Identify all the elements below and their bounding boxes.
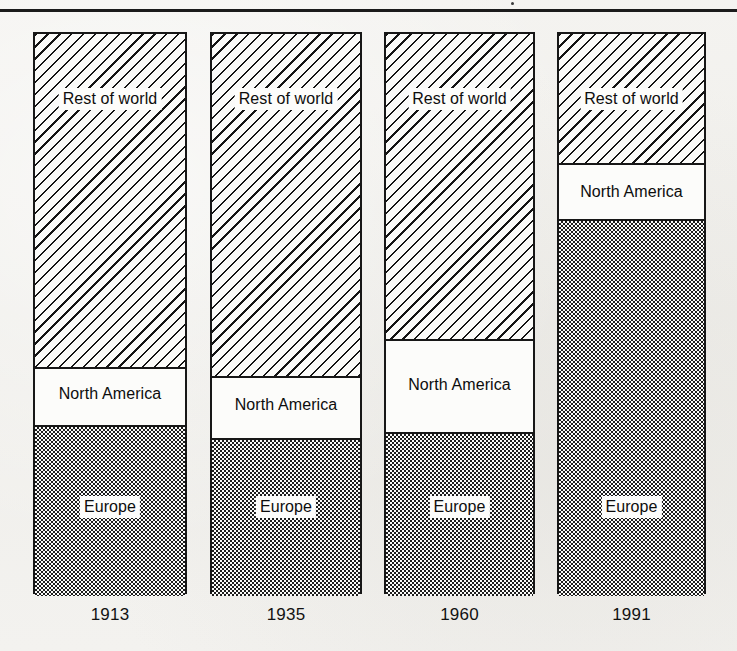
segment-label-rest_of_world-1913: Rest of world: [59, 88, 162, 110]
segment-label-north_america-1935: North America: [233, 394, 340, 416]
bar-stack-1991: Rest of worldNorth AmericaEurope: [557, 32, 706, 594]
year-label-1913: 1913: [33, 604, 187, 625]
segment-europe-1991[interactable]: [559, 221, 704, 596]
segment-label-north_america-1913: North America: [57, 383, 164, 405]
bar-stack-1913: Rest of worldNorth AmericaEurope: [33, 32, 187, 594]
bar-1935[interactable]: Rest of worldNorth AmericaEurope: [210, 32, 362, 594]
stacked-bar-chart: Rest of worldNorth AmericaEurope1913Rest…: [0, 0, 737, 651]
segment-label-rest_of_world-1935: Rest of world: [235, 88, 338, 110]
bar-1991[interactable]: Rest of worldNorth AmericaEurope: [557, 32, 706, 594]
segment-rest_of_world-1935[interactable]: [212, 34, 360, 376]
bar-1913[interactable]: Rest of worldNorth AmericaEurope: [33, 32, 187, 594]
segment-label-europe-1991: Europe: [601, 496, 661, 518]
segment-label-europe-1935: Europe: [256, 496, 316, 518]
segment-rest_of_world-1913[interactable]: [35, 34, 185, 367]
segment-europe-1935[interactable]: [212, 440, 360, 596]
segment-label-rest_of_world-1991: Rest of world: [580, 88, 683, 110]
segment-rest_of_world-1960[interactable]: [386, 34, 533, 339]
segment-label-europe-1913: Europe: [80, 496, 140, 518]
year-label-1935: 1935: [210, 604, 362, 625]
bar-1960[interactable]: Rest of worldNorth AmericaEurope: [384, 32, 535, 594]
segment-label-europe-1960: Europe: [429, 496, 489, 518]
year-label-1960: 1960: [384, 604, 535, 625]
year-label-1991: 1991: [557, 604, 706, 625]
segment-label-north_america-1960: North America: [406, 374, 513, 396]
segment-label-north_america-1991: North America: [578, 181, 685, 203]
bar-stack-1935: Rest of worldNorth AmericaEurope: [210, 32, 362, 594]
bar-stack-1960: Rest of worldNorth AmericaEurope: [384, 32, 535, 594]
segment-label-rest_of_world-1960: Rest of world: [408, 88, 511, 110]
